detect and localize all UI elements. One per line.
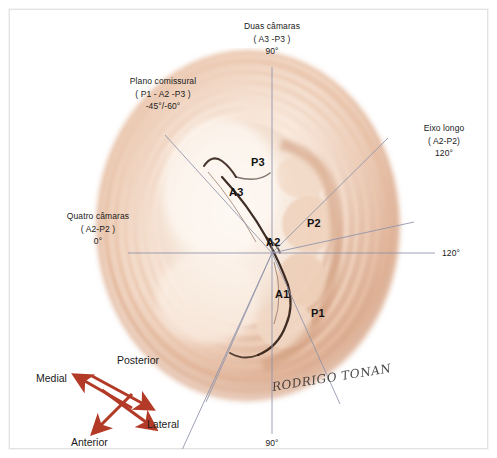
label-commissural-name: Plano comissural	[130, 75, 196, 88]
segment-label-p3: P3	[251, 156, 265, 168]
label-four-chamber-angle: 0°	[67, 235, 129, 248]
label-four-chamber: Quatro câmaras ( A2-P2 ) 0°	[67, 210, 129, 248]
orientation-compass: Medial Posterior Anterior Lateral	[36, 346, 236, 458]
label-commissural-angle: -45°/-60°	[130, 100, 196, 113]
label-long-axis-segments: ( A2-P2)	[424, 135, 465, 148]
label-long-axis: Eixo longo ( A2-P2) 120°	[424, 122, 465, 160]
figure-page: Duas câmaras ( A3 -P3 ) 90° Plano comiss…	[0, 0, 497, 458]
segment-label-p2: P2	[307, 217, 321, 229]
segment-label-a2: A2	[266, 236, 280, 248]
label-four-chamber-segments: ( A2-P2 )	[67, 223, 129, 236]
label-long-axis-angle: 120°	[424, 147, 465, 160]
label-two-chamber-segments: ( A3 -P3 )	[244, 33, 300, 46]
compass-label-lateral: Lateral	[147, 418, 179, 430]
segment-label-a1: A1	[275, 288, 289, 300]
label-commissural-segments: ( P1 - A2 -P3 )	[130, 88, 196, 101]
label-bottom-angle: 90°	[265, 437, 278, 450]
label-right-angle: 120°	[442, 247, 460, 260]
compass-label-medial: Medial	[36, 372, 67, 384]
label-two-chamber: Duas câmaras ( A3 -P3 ) 90°	[244, 20, 300, 58]
compass-label-posterior: Posterior	[117, 354, 159, 366]
label-commissural: Plano comissural ( P1 - A2 -P3 ) -45°/-6…	[130, 75, 196, 113]
label-four-chamber-name: Quatro câmaras	[67, 210, 129, 223]
label-long-axis-name: Eixo longo	[424, 122, 465, 135]
figure-frame: Duas câmaras ( A3 -P3 ) 90° Plano comiss…	[9, 9, 488, 449]
label-two-chamber-angle: 90°	[244, 45, 300, 58]
segment-label-a3: A3	[229, 186, 243, 198]
compass-label-anterior: Anterior	[71, 436, 108, 448]
segment-label-p1: P1	[311, 307, 325, 319]
label-two-chamber-name: Duas câmaras	[244, 20, 300, 33]
